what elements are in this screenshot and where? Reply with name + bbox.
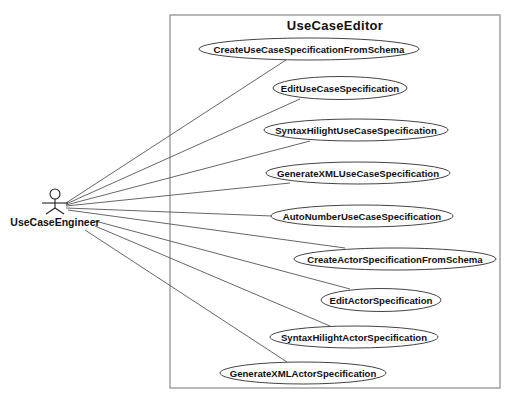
system-boundary-title: UseCaseEditor — [287, 18, 383, 33]
stick-figure-icon — [42, 189, 68, 214]
use-case[interactable]: SyntaxHilightUseCaseSpecification — [264, 119, 448, 141]
use-case-label: CreateUseCaseSpecificationFromSchema — [214, 44, 406, 55]
use-case[interactable]: SyntaxHilightActorSpecification — [270, 326, 438, 348]
use-case-diagram: UseCaseEditor CreateUseCaseSpecification… — [0, 0, 514, 402]
use-case-label: GenerateXMLActorSpecification — [230, 368, 377, 379]
use-case[interactable]: EditUseCaseSpecification — [273, 77, 407, 100]
use-case-label: EditActorSpecification — [330, 295, 433, 306]
use-case[interactable]: GenerateXMLUseCaseSpecification — [266, 162, 450, 184]
use-case-label: AutoNumberUseCaseSpecification — [283, 211, 441, 222]
use-case[interactable]: GenerateXMLActorSpecification — [220, 362, 386, 384]
use-case-label: SyntaxHilightUseCaseSpecification — [275, 125, 437, 136]
use-case[interactable]: CreateUseCaseSpecificationFromSchema — [199, 38, 419, 60]
use-case-label: EditUseCaseSpecification — [281, 83, 400, 94]
actor-label: UseCaseEngineer — [10, 216, 99, 228]
actor-right-leg — [55, 208, 64, 214]
use-case-label: SyntaxHilightActorSpecification — [281, 332, 427, 343]
use-case[interactable]: CreateActorSpecificationFromSchema — [294, 248, 496, 270]
use-case-label: CreateActorSpecificationFromSchema — [307, 254, 483, 265]
actor-head — [50, 189, 60, 199]
actor-left-leg — [46, 208, 55, 214]
use-case[interactable]: AutoNumberUseCaseSpecification — [271, 205, 453, 227]
use-case-label: GenerateXMLUseCaseSpecification — [277, 168, 439, 179]
use-case[interactable]: EditActorSpecification — [321, 289, 441, 312]
